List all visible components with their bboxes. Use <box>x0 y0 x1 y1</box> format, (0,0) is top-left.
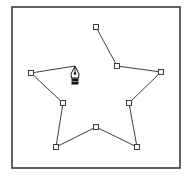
anchor-point[interactable] <box>29 71 34 76</box>
artboard-frame <box>12 7 180 168</box>
anchor-point[interactable] <box>127 101 132 106</box>
anchor-point[interactable] <box>159 70 164 75</box>
diagram-canvas <box>0 0 186 181</box>
anchor-point[interactable] <box>115 64 120 69</box>
anchor-point[interactable] <box>94 25 99 30</box>
anchor-point[interactable] <box>61 101 66 106</box>
pen-tool-icon <box>71 66 79 85</box>
anchor-point[interactable] <box>135 145 140 150</box>
star-path-illustration <box>0 0 186 181</box>
anchor-points <box>29 25 164 150</box>
anchor-point[interactable] <box>94 125 99 130</box>
anchor-point[interactable] <box>54 145 59 150</box>
